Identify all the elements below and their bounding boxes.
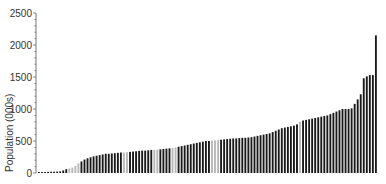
- bar: [351, 108, 353, 173]
- bars-group: [38, 35, 377, 173]
- bar: [84, 160, 86, 173]
- bar: [281, 128, 283, 173]
- bar: [229, 139, 231, 173]
- bar: [251, 137, 253, 173]
- bar: [357, 99, 359, 173]
- bar: [132, 152, 134, 173]
- bar: [311, 119, 313, 173]
- bar: [147, 150, 149, 173]
- bar: [342, 109, 344, 173]
- bar-highlighted: [68, 169, 70, 173]
- bar: [290, 126, 292, 173]
- bar: [247, 137, 249, 173]
- bar: [226, 139, 228, 173]
- bar-highlighted: [175, 147, 177, 173]
- bar: [326, 115, 328, 173]
- bar: [272, 132, 274, 173]
- bar: [266, 134, 268, 173]
- bar: [178, 147, 180, 173]
- bar: [81, 161, 83, 173]
- bar: [111, 153, 113, 173]
- bar: [41, 172, 43, 173]
- bar-highlighted: [214, 140, 216, 173]
- bar: [348, 109, 350, 173]
- bar: [202, 142, 204, 173]
- bar: [184, 145, 186, 173]
- bar: [108, 154, 110, 173]
- bar: [308, 119, 310, 173]
- bar: [372, 75, 374, 173]
- y-tick-label: 2000: [10, 40, 33, 51]
- bar: [360, 94, 362, 173]
- bar: [296, 124, 298, 173]
- bar: [220, 140, 222, 173]
- bar: [87, 158, 89, 173]
- bar: [65, 169, 67, 173]
- bar: [317, 117, 319, 173]
- bar: [117, 153, 119, 173]
- bar: [196, 143, 198, 173]
- bar: [314, 118, 316, 173]
- bar: [305, 120, 307, 173]
- bar: [159, 149, 161, 173]
- bar: [223, 139, 225, 173]
- y-tick-label: 500: [15, 136, 32, 147]
- bar: [363, 78, 365, 173]
- bar: [275, 131, 277, 173]
- bar: [93, 156, 95, 173]
- bar: [190, 144, 192, 173]
- bar: [257, 136, 259, 173]
- bar-highlighted: [77, 163, 79, 173]
- bar: [150, 150, 152, 173]
- bar: [205, 141, 207, 173]
- y-tick-label: 1500: [10, 72, 33, 83]
- bar-highlighted: [299, 122, 301, 173]
- y-tick-label: 2500: [10, 8, 33, 19]
- bar: [102, 154, 104, 173]
- bar: [232, 138, 234, 173]
- bar: [323, 116, 325, 173]
- y-tick-label: 0: [26, 168, 32, 179]
- bar-highlighted: [153, 150, 155, 173]
- bar: [366, 76, 368, 173]
- bar: [263, 135, 265, 173]
- bar: [38, 172, 40, 173]
- bar: [181, 146, 183, 173]
- bar: [345, 109, 347, 173]
- bar: [302, 121, 304, 173]
- bar: [166, 149, 168, 173]
- bar: [208, 141, 210, 173]
- bar: [254, 137, 256, 173]
- bar: [169, 148, 171, 173]
- bar: [105, 154, 107, 173]
- bar: [59, 171, 61, 173]
- bar: [287, 127, 289, 173]
- bar: [278, 129, 280, 173]
- bar-highlighted: [71, 168, 73, 173]
- y-axis-label: Population (000s): [4, 94, 15, 172]
- bar: [320, 117, 322, 173]
- bar: [96, 156, 98, 173]
- bar: [293, 126, 295, 173]
- bar-highlighted: [74, 166, 76, 173]
- bar: [47, 172, 49, 173]
- bar: [332, 113, 334, 173]
- bar: [339, 110, 341, 173]
- bar: [53, 172, 55, 173]
- bar: [260, 135, 262, 173]
- bar: [144, 151, 146, 173]
- bar: [114, 153, 116, 173]
- bar: [235, 138, 237, 173]
- bar-highlighted: [211, 141, 213, 173]
- bar: [44, 172, 46, 173]
- bar-highlighted: [123, 153, 125, 173]
- bar: [187, 145, 189, 173]
- bar: [329, 114, 331, 173]
- bar: [244, 138, 246, 173]
- bar: [50, 172, 52, 173]
- bar: [238, 138, 240, 173]
- bar: [193, 144, 195, 173]
- bar: [62, 170, 64, 173]
- bar: [135, 151, 137, 173]
- bar: [129, 152, 131, 173]
